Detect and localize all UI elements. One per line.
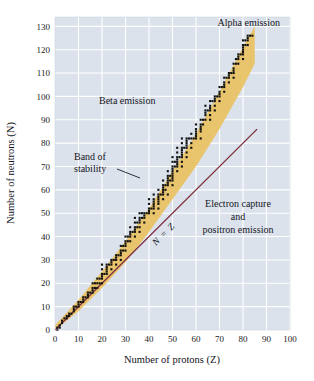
y-tick-label: 30 [41,255,51,265]
data-point [148,198,150,200]
y-tick-label: 90 [41,115,51,125]
data-point [195,135,197,137]
y-tick-label: 80 [41,138,51,148]
data-point [216,95,218,97]
data-point [186,147,188,149]
data-point [176,158,178,160]
data-point [176,170,178,172]
data-point [171,165,173,167]
data-point [129,226,131,228]
data-point [143,222,145,224]
x-tick-label: 50 [168,334,178,344]
data-point [204,109,206,111]
data-point [235,58,237,60]
data-point [244,39,246,41]
data-point [157,207,159,209]
data-point [190,147,192,149]
data-point [82,296,84,298]
data-point [233,70,235,72]
data-point [80,301,82,303]
data-point [218,91,220,93]
data-point [176,156,178,158]
data-point [242,39,244,41]
data-point [176,165,178,167]
data-point [122,245,124,247]
data-point [181,149,183,151]
data-point [171,175,173,177]
data-point [221,86,223,88]
data-point [94,282,96,284]
data-point [82,301,84,303]
data-point [136,222,138,224]
data-point [162,179,164,181]
data-point [96,287,98,289]
y-axis-title-text: Number of neutrons (N) [5,122,17,224]
data-point [139,212,141,214]
data-point [167,193,169,195]
data-point [106,273,108,275]
data-point [207,109,209,111]
data-point [171,184,173,186]
data-point [237,58,239,60]
band-label-line2: stability [74,163,106,174]
data-point [143,212,145,214]
data-point [190,133,192,135]
x-tick-label: 100 [283,334,297,344]
y-tick-label: 50 [41,208,51,218]
data-point [244,44,246,46]
data-point [174,161,176,163]
data-point [63,317,65,319]
data-point [218,100,220,102]
data-point [127,240,129,242]
data-point [136,226,138,228]
y-tick-label: 110 [37,68,51,78]
data-point [240,53,242,55]
data-point [99,282,101,284]
data-point [101,275,103,277]
data-point [143,217,145,219]
data-point [181,165,183,167]
data-point [200,130,202,132]
data-point [162,186,164,188]
data-point [106,268,108,270]
data-point [228,74,230,76]
data-point [77,301,79,303]
data-point [160,193,162,195]
data-point [237,56,239,58]
data-point [233,72,235,74]
data-point [120,254,122,256]
data-point [200,137,202,139]
data-point [120,250,122,252]
data-point [153,207,155,209]
data-point [115,257,117,259]
electron-capture-line2: and [231,211,245,222]
data-point [218,95,220,97]
data-point [162,193,164,195]
chart-svg: 0102030405060708090100 10203040506070809… [0,0,314,381]
data-point [171,170,173,172]
data-point [106,266,108,268]
data-point [251,35,253,37]
data-point [124,245,126,247]
data-point [200,119,202,121]
data-point [129,240,131,242]
data-point [148,207,150,209]
data-point [101,282,103,284]
data-point [171,168,173,170]
data-point [61,320,63,322]
data-point [73,310,75,312]
annotation-beta-emission: Beta emission [99,95,155,106]
data-point [146,212,148,214]
x-tick-label: 10 [74,334,84,344]
data-point [214,105,216,107]
data-point [110,259,112,261]
data-point [176,161,178,163]
data-point [167,175,169,177]
data-point [186,140,188,142]
data-point [171,172,173,174]
data-point [157,200,159,202]
data-point [171,177,173,179]
data-point [115,254,117,256]
x-tick-label: 40 [145,334,155,344]
data-point [59,324,61,326]
